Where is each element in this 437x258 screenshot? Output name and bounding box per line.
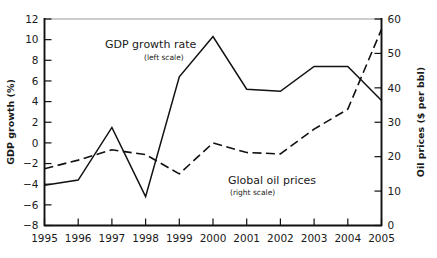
x-tick-label: 1995 [31, 232, 58, 244]
x-tick-label: 2005 [368, 232, 395, 244]
right-tick-label: 50 [388, 47, 401, 59]
left-tick-label: 0 [32, 137, 39, 149]
x-axis-tick-labels: 1995199619971998199920002001200220032004… [31, 232, 395, 244]
right-tick-label: 0 [388, 219, 395, 231]
x-tick-label: 2004 [334, 232, 361, 244]
left-tick-label: −8 [23, 219, 38, 231]
x-tick-label: 2003 [301, 232, 328, 244]
annotation-gdp-growth-rate: GDP growth rate [105, 38, 196, 51]
left-tick-label: 10 [25, 33, 38, 45]
right-tick-label: 60 [388, 13, 401, 25]
chart-background [0, 0, 437, 258]
x-tick-label: 2001 [233, 232, 260, 244]
x-tick-label: 2002 [267, 232, 294, 244]
left-tick-label: −2 [23, 157, 38, 169]
left-tick-label: 6 [32, 75, 39, 87]
x-tick-label: 1999 [166, 232, 193, 244]
x-tick-label: 1997 [99, 232, 126, 244]
left-tick-label: −6 [23, 199, 39, 211]
left-tick-label: 12 [25, 13, 38, 25]
left-axis-title: GDP growth (%) [5, 79, 16, 165]
left-tick-label: 2 [32, 116, 39, 128]
left-tick-label: 4 [32, 95, 39, 107]
right-axis-title: Oil prices ($ per bbl) [415, 67, 426, 177]
left-tick-label: 8 [32, 54, 39, 66]
x-tick-label: 1996 [65, 232, 92, 244]
annotation-global-oil-prices-scale: (right scale) [230, 188, 275, 197]
right-tick-label: 20 [388, 150, 401, 162]
right-tick-label: 40 [388, 82, 401, 94]
x-tick-label: 1998 [132, 232, 159, 244]
annotation-global-oil-prices: Global oil prices [228, 174, 316, 187]
right-tick-label: 10 [388, 185, 401, 197]
annotation-gdp-growth-rate-scale: (left scale) [144, 53, 184, 62]
x-tick-label: 2000 [200, 232, 227, 244]
right-tick-label: 30 [388, 116, 401, 128]
dual-axis-line-chart: −8−6−4−2024681012 0102030405060 19951996… [0, 0, 437, 258]
chart-container: −8−6−4−2024681012 0102030405060 19951996… [0, 0, 437, 258]
left-tick-label: −4 [23, 178, 39, 190]
